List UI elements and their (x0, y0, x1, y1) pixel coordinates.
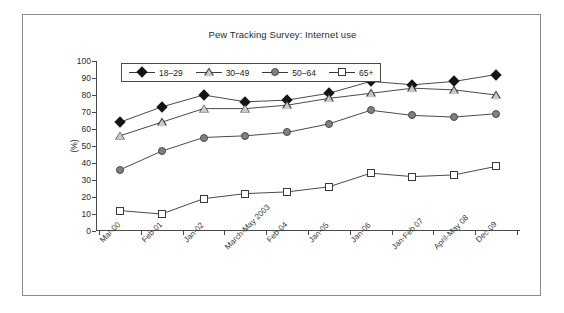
x-tick-mark (350, 231, 351, 235)
data-point-marker (241, 105, 249, 112)
legend-marker (262, 67, 288, 78)
x-tick-mark (183, 231, 184, 235)
legend-marker-glyph (271, 68, 279, 76)
data-point-marker (158, 119, 166, 126)
series-markers (96, 61, 520, 231)
data-point-marker (158, 147, 166, 155)
legend-marker-glyph (338, 68, 346, 76)
legend-marker (329, 67, 355, 78)
legend-marker-glyph (136, 66, 147, 77)
data-point-marker (367, 90, 375, 97)
legend-entry: 18–29 (129, 67, 183, 78)
data-point-marker (114, 117, 125, 128)
y-axis-title: (%) (69, 139, 79, 152)
data-point-marker (241, 190, 249, 198)
data-point-marker (450, 113, 458, 121)
legend-label: 65+ (359, 68, 373, 78)
data-point-marker (490, 69, 501, 80)
y-tick-label: 90 (82, 73, 91, 83)
chart-legend: 18–2930–4950–6465+ (121, 63, 381, 82)
y-tick-label: 40 (82, 158, 91, 168)
legend-label: 50–64 (292, 68, 316, 78)
data-point-marker (283, 188, 291, 196)
legend-marker (196, 67, 222, 78)
legend-marker-glyph (205, 69, 213, 76)
data-point-marker (200, 134, 208, 142)
data-point-marker (492, 92, 500, 99)
data-point-marker (450, 171, 458, 179)
data-point-marker (116, 133, 124, 140)
data-point-marker (283, 102, 291, 109)
data-point-marker (408, 111, 416, 119)
data-point-marker (450, 87, 458, 94)
y-tick-label: 10 (82, 209, 91, 219)
y-tick-label: 80 (82, 90, 91, 100)
data-point-marker (156, 101, 167, 112)
figure-frame: Pew Tracking Survey: Internet use (%) 01… (22, 14, 541, 296)
data-point-marker (325, 95, 333, 102)
data-point-marker (200, 105, 208, 112)
y-tick-label: 50 (82, 141, 91, 151)
data-point-marker (158, 210, 166, 218)
y-tick-label: 60 (82, 124, 91, 134)
x-tick-mark (392, 231, 393, 235)
y-tick-label: 100 (77, 56, 91, 66)
legend-label: 30–49 (226, 68, 250, 78)
chart-title: Pew Tracking Survey: Internet use (23, 29, 542, 40)
y-tick-label: 20 (82, 192, 91, 202)
y-tick-label: 0 (86, 226, 91, 236)
legend-entry: 30–49 (196, 67, 250, 78)
data-point-marker (408, 85, 416, 92)
data-point-marker (116, 166, 124, 174)
data-point-marker (116, 207, 124, 215)
data-point-marker (367, 169, 375, 177)
data-point-marker (283, 128, 291, 136)
x-tick-mark (433, 231, 434, 235)
plot-area: 0102030405060708090100 Mar-00Feb-01Jan-0… (96, 61, 520, 231)
y-tick-label: 70 (82, 107, 91, 117)
legend-entry: 65+ (329, 67, 373, 78)
data-point-marker (325, 120, 333, 128)
y-tick-mark (92, 231, 96, 232)
data-point-marker (241, 132, 249, 140)
legend-entry: 50–64 (262, 67, 316, 78)
data-point-marker (367, 106, 375, 114)
legend-marker (129, 67, 155, 78)
y-tick-label: 30 (82, 175, 91, 185)
data-point-marker (408, 173, 416, 181)
legend-label: 18–29 (159, 68, 183, 78)
data-point-marker (492, 110, 500, 118)
data-point-marker (198, 89, 209, 100)
chart-screenshot: Pew Tracking Survey: Internet use (%) 01… (0, 0, 564, 313)
x-tick-mark (517, 231, 518, 235)
data-point-marker (325, 183, 333, 191)
data-point-marker (492, 162, 500, 170)
data-point-marker (200, 195, 208, 203)
x-tick-mark (224, 231, 225, 235)
